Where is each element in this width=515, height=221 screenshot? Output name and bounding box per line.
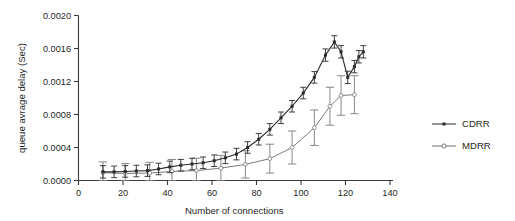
- data-point-marker: [346, 76, 349, 79]
- data-point-marker: [246, 146, 249, 149]
- data-point-marker: [291, 105, 294, 108]
- data-point-marker: [290, 146, 294, 150]
- data-point-marker: [328, 104, 332, 108]
- data-point-marker: [313, 76, 316, 79]
- y-tick-label: 0.0008: [43, 110, 71, 120]
- data-point-marker: [219, 166, 223, 170]
- x-axis-title: Number of connections: [185, 205, 284, 216]
- data-point-marker: [101, 170, 104, 173]
- data-point-marker: [268, 128, 271, 131]
- data-point-marker: [257, 138, 260, 141]
- legend-entry-mdrr[interactable]: MDRR: [432, 140, 491, 151]
- chart-figure: 0.00000.00040.00080.00120.00160.00200204…: [0, 0, 515, 221]
- x-tick-label: 120: [338, 188, 353, 198]
- y-tick-label: 0.0000: [43, 176, 71, 186]
- y-tick-label: 0.0020: [43, 11, 71, 21]
- data-point-marker: [124, 170, 127, 173]
- x-tick-label: 40: [162, 188, 172, 198]
- data-point-marker: [179, 164, 182, 167]
- y-tick-label: 0.0004: [43, 143, 71, 153]
- data-point-marker: [157, 167, 160, 170]
- data-point-marker: [324, 54, 327, 57]
- data-point-marker: [362, 50, 365, 53]
- y-axis-title: queue avrage delay (Sec): [16, 43, 27, 153]
- data-point-marker: [339, 94, 343, 98]
- chart-canvas: 0.00000.00040.00080.00120.00160.00200204…: [0, 0, 515, 221]
- x-tick-label: 20: [118, 188, 128, 198]
- x-tick-label: 100: [293, 188, 308, 198]
- data-point-marker: [195, 169, 199, 173]
- y-tick-label: 0.0012: [43, 77, 71, 87]
- data-point-marker: [224, 156, 227, 159]
- data-point-marker: [353, 93, 357, 97]
- legend-label: CDRR: [462, 118, 490, 129]
- data-point-marker: [168, 165, 171, 168]
- data-point-marker: [235, 153, 238, 156]
- y-tick-label: 0.0016: [43, 44, 71, 54]
- data-point-marker: [190, 163, 193, 166]
- error-bars-cdrr: [100, 36, 366, 178]
- x-tick-label: 0: [76, 188, 81, 198]
- x-tick-label: 140: [382, 188, 397, 198]
- data-point-marker: [113, 170, 116, 173]
- legend-marker-sample: [442, 144, 446, 148]
- x-tick-label: 60: [207, 188, 217, 198]
- legend-entry-cdrr[interactable]: CDRR: [432, 118, 490, 129]
- series-mdrr: [101, 93, 356, 176]
- legend-label: MDRR: [462, 140, 491, 151]
- data-point-marker: [333, 40, 336, 43]
- data-point-marker: [135, 170, 138, 173]
- data-point-marker: [353, 65, 356, 68]
- series-line: [103, 95, 354, 174]
- data-point-marker: [357, 55, 360, 58]
- data-point-marker: [146, 169, 149, 172]
- x-tick-label: 80: [251, 188, 261, 198]
- data-point-marker: [202, 161, 205, 164]
- legend-marker-sample: [443, 123, 446, 126]
- data-point-marker: [340, 50, 343, 53]
- data-point-marker: [243, 163, 247, 167]
- data-point-marker: [279, 116, 282, 119]
- data-point-marker: [302, 92, 305, 95]
- data-point-marker: [268, 157, 272, 161]
- data-point-marker: [213, 159, 216, 162]
- error-bars-mdrr: [99, 76, 359, 181]
- data-point-marker: [312, 126, 316, 130]
